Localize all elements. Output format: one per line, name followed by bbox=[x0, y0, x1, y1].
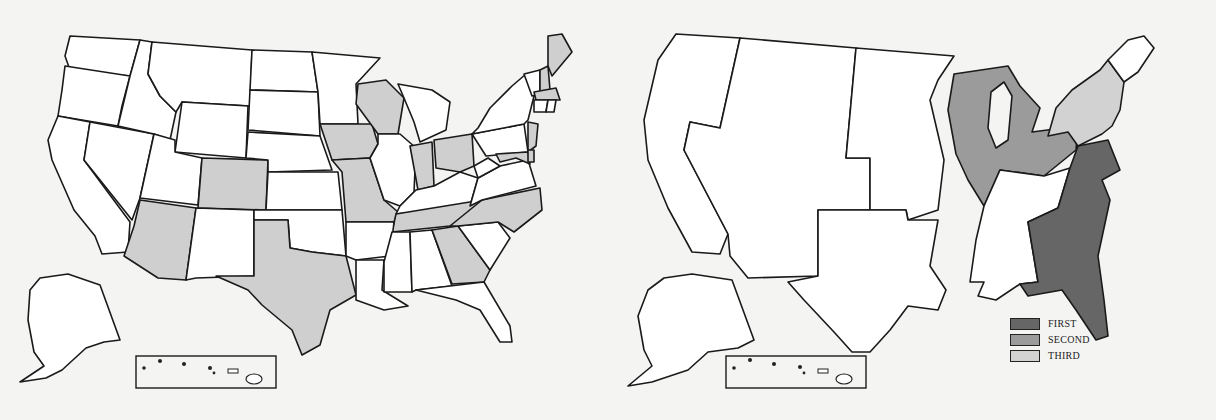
legend-item-second: SECOND bbox=[1010, 332, 1090, 347]
legend-item-first: FIRST bbox=[1010, 316, 1090, 331]
state-north-dakota bbox=[250, 50, 318, 92]
states-group bbox=[20, 34, 572, 382]
hawaii-inset bbox=[726, 356, 866, 388]
state-delaware bbox=[528, 150, 534, 162]
state-new-jersey bbox=[528, 122, 538, 152]
state-florida bbox=[416, 282, 512, 342]
hawaii-inset bbox=[136, 356, 276, 388]
state-maryland bbox=[496, 152, 530, 164]
state-rhode-island bbox=[546, 100, 556, 112]
legend-swatch-first bbox=[1010, 318, 1040, 330]
us-regions-map bbox=[608, 0, 1216, 420]
state-south-dakota bbox=[248, 90, 320, 136]
legend-label: SECOND bbox=[1048, 334, 1090, 345]
legend-label: FIRST bbox=[1048, 318, 1077, 329]
lake-michigan bbox=[988, 82, 1012, 148]
state-new-hampshire bbox=[540, 66, 550, 92]
state-kansas bbox=[266, 172, 342, 210]
us-states-map bbox=[0, 0, 608, 420]
state-colorado bbox=[198, 158, 268, 210]
map-legend: FIRST SECOND THIRD bbox=[1010, 316, 1090, 364]
state-ohio bbox=[434, 134, 474, 172]
legend-swatch-third bbox=[1010, 350, 1040, 362]
legend-swatch-second bbox=[1010, 334, 1040, 346]
state-alaska bbox=[20, 274, 120, 382]
state-iowa bbox=[320, 124, 378, 160]
legend-item-third: THIRD bbox=[1010, 348, 1090, 363]
state-new-mexico bbox=[186, 208, 254, 280]
region-middle-atlantic bbox=[1048, 60, 1124, 146]
state-michigan bbox=[398, 84, 450, 142]
state-wyoming bbox=[175, 102, 248, 158]
state-maine bbox=[548, 34, 572, 76]
legend-label: THIRD bbox=[1048, 350, 1080, 361]
state-oregon bbox=[58, 66, 130, 126]
